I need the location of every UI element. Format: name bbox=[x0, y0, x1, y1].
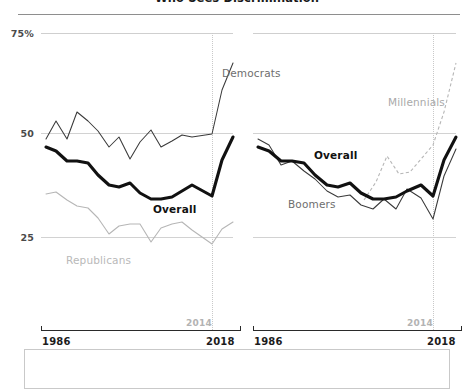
panel-by-party: 75% 50 25 2014 Democrats Overall Republi… bbox=[0, 0, 242, 376]
x-tick-start bbox=[41, 326, 42, 330]
x-axis-right bbox=[253, 330, 462, 331]
x-label-2018: 2018 bbox=[206, 336, 235, 347]
party-series-svg bbox=[0, 0, 242, 376]
series-democrats bbox=[46, 63, 233, 159]
x-tick-start-right bbox=[253, 326, 254, 330]
x-label-1986-right: 1986 bbox=[254, 336, 283, 347]
label-overall-generation: Overall bbox=[314, 149, 357, 161]
label-boomers: Boomers bbox=[288, 198, 336, 210]
label-overall-party: Overall bbox=[153, 203, 196, 215]
x-label-2018-right: 2018 bbox=[427, 336, 456, 347]
x-tick-end bbox=[240, 326, 241, 330]
series-overall-party bbox=[46, 137, 233, 199]
generation-series-svg bbox=[242, 0, 474, 376]
label-republicans: Republicans bbox=[66, 254, 131, 266]
x-axis-left bbox=[41, 330, 241, 331]
x-tick-end-right bbox=[461, 326, 462, 330]
series-millennials bbox=[364, 63, 456, 200]
panel-by-generation: 2014 Millennials Overall Boomers 1986 20… bbox=[242, 0, 474, 376]
series-republicans bbox=[46, 192, 233, 244]
caption-box bbox=[24, 349, 450, 389]
label-millennials: Millennials bbox=[388, 96, 445, 108]
x-label-1986: 1986 bbox=[42, 336, 71, 347]
series-overall-generation bbox=[258, 137, 456, 199]
